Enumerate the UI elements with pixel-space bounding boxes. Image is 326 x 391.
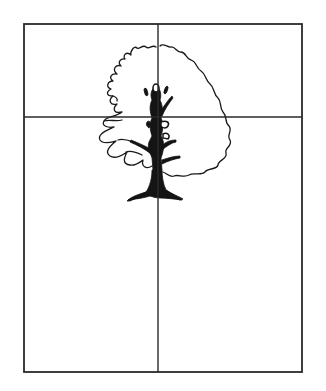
- diagram-canvas: [0, 0, 326, 391]
- tree-composition-diagram: [0, 0, 326, 391]
- tree-trunk: [127, 84, 183, 201]
